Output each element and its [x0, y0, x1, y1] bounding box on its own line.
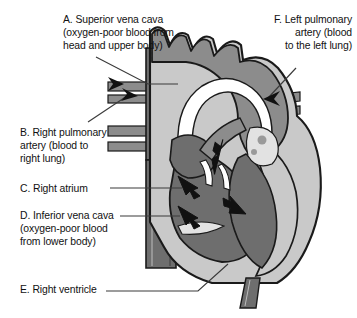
label-f-left-pulmonary-artery: F. Left pulmonary artery (blood to the l…: [252, 13, 352, 53]
label-b-right-pulmonary-artery: B. Right pulmonary artery (blood to righ…: [20, 126, 107, 166]
label-a-superior-vena-cava: A. Superior vena cava (oxygen-poor blood…: [63, 13, 174, 53]
label-d-inferior-vena-cava: D. Inferior vena cava (oxygen-poor blood…: [20, 209, 114, 249]
heart-diagram-figure: A. Superior vena cava (oxygen-poor blood…: [0, 0, 357, 318]
label-c-right-atrium: C. Right atrium: [20, 182, 88, 195]
label-e-right-ventricle: E. Right ventricle: [20, 283, 97, 296]
